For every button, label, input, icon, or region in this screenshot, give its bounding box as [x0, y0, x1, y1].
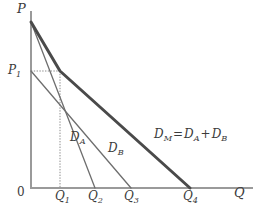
equals-sign: = — [172, 127, 184, 141]
demand-m-base: D — [154, 127, 164, 141]
demand-curve-b-label: DB — [108, 142, 124, 156]
x-axis-label: Q — [234, 186, 245, 199]
quantity-tick-base: Q — [183, 189, 193, 203]
demand-m-term-b-subscript: B — [221, 133, 227, 143]
quantity-tick-base: Q — [88, 189, 98, 203]
quantity-tick-subscript: 2 — [98, 195, 103, 205]
price-tick-subscript: 1 — [16, 69, 21, 79]
quantity-tick-base: Q — [124, 189, 134, 203]
demand-b-subscript: B — [118, 147, 124, 157]
market-demand-diagram: P Q 0 P1 Q1 Q2 Q3 Q4 DA DB DM=DA+DB — [0, 0, 259, 218]
quantity-tick-label-q4: Q4 — [183, 190, 198, 204]
demand-a-subscript: A — [80, 136, 86, 146]
demand-b-base: D — [108, 141, 118, 155]
demand-m-subscript: M — [164, 133, 172, 143]
quantity-tick-label-q3: Q3 — [124, 190, 139, 204]
quantity-tick-subscript: 1 — [65, 195, 70, 205]
quantity-tick-base: Q — [55, 189, 65, 203]
price-tick-base: P — [8, 63, 16, 77]
quantity-tick-subscript: 3 — [134, 195, 139, 205]
price-tick-label-p1: P1 — [8, 64, 21, 78]
demand-a-base: D — [70, 130, 80, 144]
plot-canvas — [0, 0, 259, 218]
quantity-tick-label-q2: Q2 — [88, 190, 103, 204]
quantity-tick-label-q1: Q1 — [55, 190, 70, 204]
origin-label: 0 — [17, 186, 25, 198]
plus-sign: + — [200, 127, 212, 141]
demand-m-term-a-base: D — [184, 127, 194, 141]
demand-m-term-b-base: D — [212, 127, 222, 141]
y-axis-label: P — [17, 2, 26, 15]
demand-curve-market-label: DM=DA+DB — [154, 128, 227, 142]
demand-curve-a-label: DA — [70, 131, 86, 145]
demand-m-term-a-subscript: A — [194, 133, 200, 143]
quantity-tick-subscript: 4 — [193, 195, 198, 205]
demand-curve-a — [31, 22, 95, 188]
